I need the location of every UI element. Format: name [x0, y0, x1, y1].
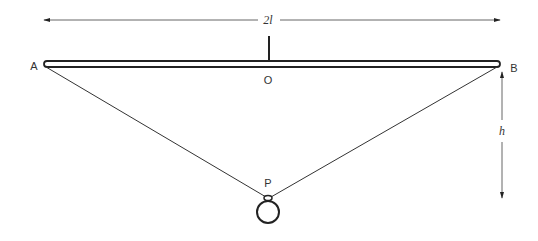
span-dimension: 2l [44, 13, 500, 27]
string-bp [271, 67, 497, 197]
rod-body [44, 61, 500, 67]
height-dimension: h [499, 72, 505, 198]
knot [264, 196, 272, 201]
span-label: 2l [263, 13, 273, 27]
label-b: B [510, 62, 517, 74]
ring-p [257, 196, 279, 224]
ring [257, 201, 279, 223]
string-ap [46, 67, 266, 197]
label-o: O [264, 74, 273, 86]
label-p: P [264, 177, 271, 189]
rod [44, 61, 500, 67]
height-label: h [499, 124, 505, 138]
label-a: A [30, 60, 38, 72]
diagram-canvas: 2l h A B O P [0, 0, 538, 241]
